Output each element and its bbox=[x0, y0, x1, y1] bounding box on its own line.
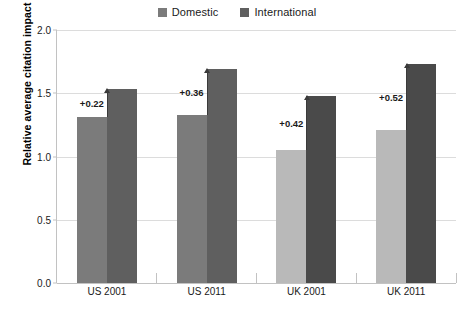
y-axis-tick-label: 0.0 bbox=[37, 278, 51, 289]
arrow-shaft bbox=[406, 68, 407, 130]
bar-international[interactable] bbox=[406, 64, 436, 283]
bar-domestic[interactable] bbox=[177, 115, 207, 283]
arrow-up-icon bbox=[304, 95, 310, 100]
legend-label: International bbox=[254, 6, 316, 18]
bar-group-us-2001: US 2001 bbox=[57, 30, 157, 283]
bar-international[interactable] bbox=[107, 89, 137, 283]
x-axis-category-label: US 2011 bbox=[157, 286, 257, 297]
delta-label: +0.52 bbox=[379, 92, 403, 103]
arrow-up-icon bbox=[104, 88, 110, 93]
legend-swatch-icon bbox=[158, 8, 167, 17]
y-axis-tick-label: 1.5 bbox=[37, 88, 51, 99]
x-axis-tickmark bbox=[456, 273, 457, 283]
delta-label: +0.36 bbox=[180, 86, 204, 97]
arrow-up-icon bbox=[404, 63, 410, 68]
legend-item-domestic[interactable]: Domestic bbox=[158, 6, 219, 18]
x-axis-category-label: UK 2011 bbox=[356, 286, 456, 297]
delta-label: +0.42 bbox=[279, 117, 303, 128]
bar-domestic[interactable] bbox=[77, 117, 107, 283]
x-axis-category-label: UK 2001 bbox=[257, 286, 357, 297]
y-axis-title: Relative average citation impact bbox=[21, 0, 33, 199]
bar-international[interactable] bbox=[306, 96, 336, 283]
bar-domestic[interactable] bbox=[276, 150, 306, 283]
chart-legend: DomesticInternational bbox=[0, 6, 474, 18]
legend-item-international[interactable]: International bbox=[240, 6, 316, 18]
bar-domestic[interactable] bbox=[376, 130, 406, 283]
plot-area: 0.00.51.01.52.0US 2001+0.22US 2011+0.36U… bbox=[56, 30, 455, 283]
bar-group-uk-2001: UK 2001 bbox=[257, 30, 357, 283]
arrow-shaft bbox=[306, 100, 307, 150]
arrow-up-icon bbox=[204, 68, 210, 73]
gridline bbox=[57, 283, 456, 284]
legend-label: Domestic bbox=[172, 6, 219, 18]
y-axis-tick-label: 2.0 bbox=[37, 25, 51, 36]
bar-international[interactable] bbox=[207, 69, 237, 283]
arrow-shaft bbox=[207, 73, 208, 115]
delta-label: +0.22 bbox=[80, 98, 104, 109]
x-axis-category-label: US 2001 bbox=[57, 286, 157, 297]
arrow-shaft bbox=[107, 93, 108, 117]
y-axis-tick-label: 1.0 bbox=[37, 151, 51, 162]
y-axis-tick-label: 0.5 bbox=[37, 214, 51, 225]
legend-swatch-icon bbox=[240, 8, 249, 17]
